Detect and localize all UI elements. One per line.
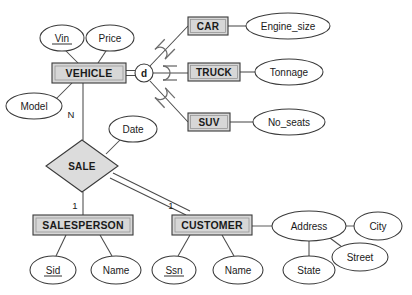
- link-vehicle-vin: [66, 51, 78, 63]
- link-vehicle-price: [98, 51, 106, 63]
- entity-customer-label: CUSTOMER: [181, 219, 243, 231]
- cardinality-sale-salesperson: 1: [72, 200, 77, 211]
- attribute-customer-name[interactable]: Name: [213, 256, 263, 284]
- er-diagram-canvas: SALE VEHICLE CAR TRUCK SUV SALESPERSON: [0, 0, 412, 295]
- attribute-address[interactable]: Address: [272, 211, 346, 241]
- attribute-price-label: Price: [99, 33, 122, 44]
- attribute-customer-name-label: Name: [225, 265, 252, 276]
- entity-salesperson-label: SALESPERSON: [42, 219, 124, 231]
- attribute-ssn[interactable]: Ssn: [152, 256, 196, 284]
- attribute-tonnage-label: Tonnage: [270, 67, 309, 78]
- attribute-address-label: Address: [291, 221, 328, 232]
- link-customer-ssn: [178, 235, 190, 256]
- link-sale-customer-b: [113, 173, 190, 211]
- attribute-date[interactable]: Date: [109, 116, 157, 142]
- specialization-symbol: d: [141, 68, 147, 79]
- cardinality-vehicle-sale: N: [68, 109, 75, 120]
- relationship-sale[interactable]: SALE: [46, 140, 118, 192]
- attribute-sid-label: Sid: [46, 265, 60, 276]
- attribute-vin[interactable]: Vin: [40, 25, 84, 51]
- link-customer-name: [222, 235, 234, 256]
- entity-car[interactable]: CAR: [188, 17, 228, 35]
- relationship-sale-label: SALE: [68, 161, 96, 172]
- entity-suv[interactable]: SUV: [188, 113, 230, 131]
- attribute-engine-size[interactable]: Engine_size: [246, 13, 330, 39]
- attribute-model-label: Model: [20, 101, 47, 112]
- link-spec-car: [150, 26, 188, 66]
- attribute-sid[interactable]: Sid: [30, 256, 76, 284]
- attribute-ssn-label: Ssn: [165, 265, 182, 276]
- attribute-model[interactable]: Model: [6, 93, 62, 119]
- attribute-state-label: State: [297, 265, 321, 276]
- attribute-salesperson-name-label: Name: [103, 265, 130, 276]
- entity-salesperson[interactable]: SALESPERSON: [33, 215, 133, 235]
- link-vehicle-model: [56, 83, 72, 99]
- link-spec-suv: [150, 81, 188, 122]
- link-sale-date: [106, 138, 122, 154]
- entity-truck-label: TRUCK: [196, 67, 233, 78]
- cardinality-sale-customer: 1: [168, 200, 173, 211]
- entity-vehicle[interactable]: VEHICLE: [52, 63, 126, 83]
- attribute-date-label: Date: [122, 124, 144, 135]
- link-salesperson-sid: [56, 235, 66, 256]
- attribute-vin-label: Vin: [55, 33, 69, 44]
- attribute-city-label: City: [369, 221, 386, 232]
- attribute-tonnage[interactable]: Tonnage: [255, 59, 323, 85]
- subset-arc-car: [155, 39, 175, 59]
- specialization-circle[interactable]: d: [135, 64, 153, 82]
- attribute-engine-size-label: Engine_size: [261, 21, 316, 32]
- entity-suv-label: SUV: [198, 117, 219, 128]
- entity-customer[interactable]: CUSTOMER: [172, 215, 252, 235]
- link-salesperson-name: [100, 235, 112, 256]
- attribute-no-seats-label: No_seats: [268, 117, 310, 128]
- attribute-no-seats[interactable]: No_seats: [253, 109, 325, 135]
- entity-truck[interactable]: TRUCK: [188, 63, 240, 81]
- attribute-salesperson-name[interactable]: Name: [91, 256, 141, 284]
- link-sale-customer-a: [110, 178, 186, 215]
- er-diagram-svg: SALE VEHICLE CAR TRUCK SUV SALESPERSON: [0, 0, 412, 295]
- entity-car-label: CAR: [197, 21, 220, 32]
- attribute-city[interactable]: City: [354, 212, 402, 240]
- attribute-street[interactable]: Street: [332, 243, 388, 271]
- attribute-street-label: Street: [347, 252, 374, 263]
- attribute-state[interactable]: State: [283, 256, 335, 284]
- entity-vehicle-label: VEHICLE: [66, 67, 113, 79]
- attribute-price[interactable]: Price: [86, 25, 134, 51]
